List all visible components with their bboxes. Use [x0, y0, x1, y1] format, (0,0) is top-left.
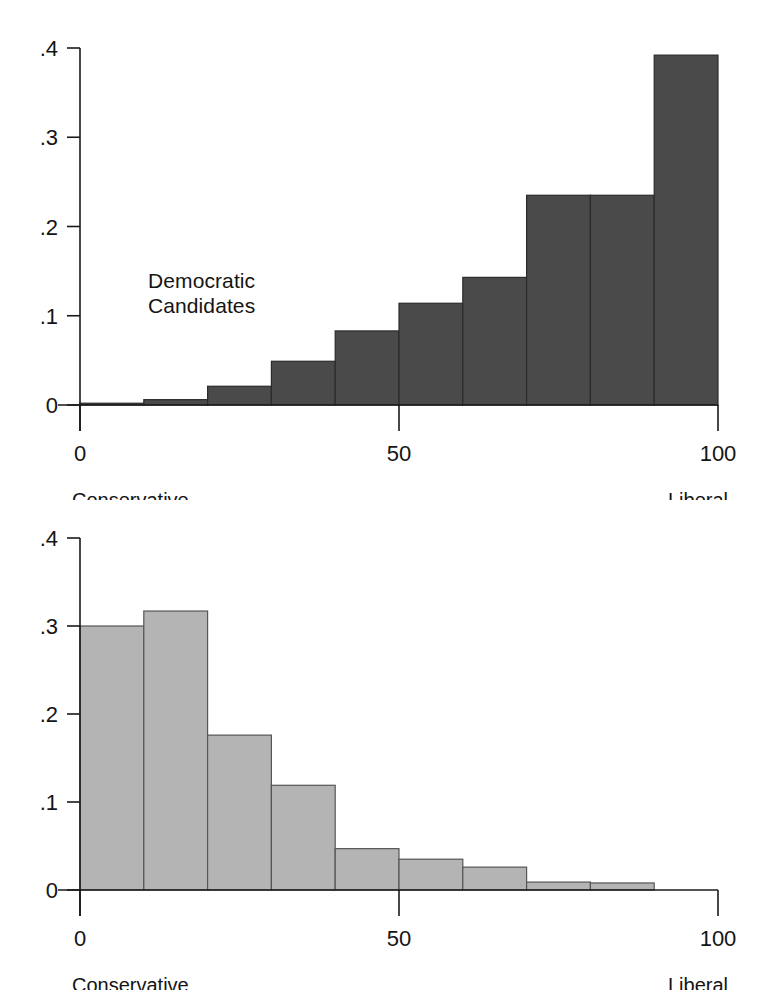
histogram-bar	[527, 195, 591, 405]
histogram-bar	[399, 303, 463, 405]
y-axis-tick-label: .2	[40, 215, 58, 240]
y-axis-tick-label: .1	[40, 304, 58, 329]
y-axis-tick-label: 0	[46, 393, 58, 418]
histogram-bar	[271, 361, 335, 405]
x-axis-tick-label: 50	[387, 441, 411, 466]
y-axis-tick-label: .4	[40, 36, 58, 61]
two-panel-histogram-figure: 0.1.2.3.4050100ConservativeLiberal Democ…	[0, 0, 768, 990]
y-axis-tick-label: .3	[40, 125, 58, 150]
histogram-bar	[208, 386, 272, 405]
y-axis-tick-label: .1	[40, 790, 58, 815]
histogram-bar	[463, 277, 527, 405]
x-axis-left-label: Conservative	[72, 974, 189, 990]
republican-candidates-panel: 0.1.2.3.4050100ConservativeLiberal Repub…	[0, 500, 768, 990]
histogram-bar	[399, 859, 463, 890]
republican-histogram-plot: 0.1.2.3.4050100ConservativeLiberal	[0, 500, 768, 990]
x-axis-left-label: Conservative	[72, 489, 189, 500]
x-axis-tick-label: 0	[74, 441, 86, 466]
histogram-bar	[208, 735, 272, 890]
y-axis-tick-label: .3	[40, 614, 58, 639]
histogram-bars	[80, 55, 718, 405]
histogram-bar	[527, 882, 591, 890]
histogram-bar	[271, 785, 335, 890]
histogram-bar	[144, 611, 208, 890]
histogram-bar	[463, 867, 527, 890]
histogram-bar	[654, 55, 718, 405]
x-axis-right-label: Liberal	[668, 974, 728, 990]
democratic-histogram-plot: 0.1.2.3.4050100ConservativeLiberal	[0, 0, 768, 500]
y-axis-tick-label: .2	[40, 702, 58, 727]
histogram-bars	[80, 611, 654, 890]
y-axis-tick-label: .4	[40, 526, 58, 551]
histogram-bar	[335, 331, 399, 405]
x-axis-tick-label: 50	[387, 926, 411, 951]
histogram-bar	[335, 849, 399, 890]
y-axis-tick-label: 0	[46, 878, 58, 903]
histogram-bar	[590, 195, 654, 405]
histogram-bar	[144, 400, 208, 405]
x-axis-tick-label: 0	[74, 926, 86, 951]
histogram-bar	[590, 883, 654, 890]
democratic-candidates-panel: 0.1.2.3.4050100ConservativeLiberal Democ…	[0, 0, 768, 500]
democratic-series-label: Democratic Candidates	[148, 268, 255, 318]
histogram-bar	[80, 626, 144, 890]
x-axis-tick-label: 100	[700, 926, 737, 951]
x-axis-right-label: Liberal	[668, 489, 728, 500]
x-axis-tick-label: 100	[700, 441, 737, 466]
